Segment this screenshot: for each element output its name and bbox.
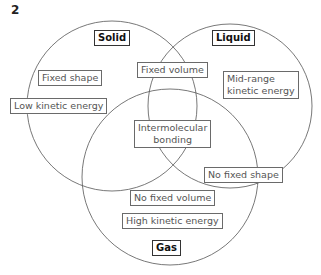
no-fixed-volume-label: No fixed volume [130,190,215,206]
liquid-circle [148,24,312,188]
intermolecular-bonding-label: Intermolecular bonding [134,120,211,148]
solid-title: Solid [94,30,130,46]
liquid-title: Liquid [212,30,255,46]
mid-ke-line-1: Mid-range [227,73,295,85]
mid-ke-line-2: kinetic energy [227,85,295,97]
intermol-line-2: bonding [138,134,207,146]
mid-kinetic-energy-label: Mid-range kinetic energy [223,71,299,99]
gas-title: Gas [152,240,181,256]
fixed-shape-label: Fixed shape [38,70,102,86]
no-fixed-shape-label: No fixed shape [204,167,283,183]
intermol-line-1: Intermolecular [138,122,207,134]
low-kinetic-energy-label: Low kinetic energy [10,98,107,114]
high-kinetic-energy-label: High kinetic energy [122,213,223,229]
fixed-volume-label: Fixed volume [137,62,208,78]
